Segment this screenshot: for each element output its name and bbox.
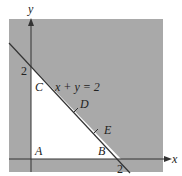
x-tick-label: 2 bbox=[117, 162, 123, 176]
point-d-label: D bbox=[79, 97, 89, 111]
x-axis-label: x bbox=[171, 152, 178, 166]
point-b-label: B bbox=[98, 144, 106, 158]
y-axis-label: y bbox=[27, 2, 34, 16]
feasible-region-diagram: y x 2 2 x + y = 2 C D E A B bbox=[0, 0, 182, 176]
point-c-label: C bbox=[35, 80, 44, 94]
point-e-label: E bbox=[103, 123, 112, 137]
point-a-label: A bbox=[34, 144, 43, 158]
constraint-label: x + y = 2 bbox=[54, 80, 100, 94]
y-tick-label: 2 bbox=[21, 64, 27, 78]
x-axis-arrow-icon bbox=[164, 156, 172, 162]
